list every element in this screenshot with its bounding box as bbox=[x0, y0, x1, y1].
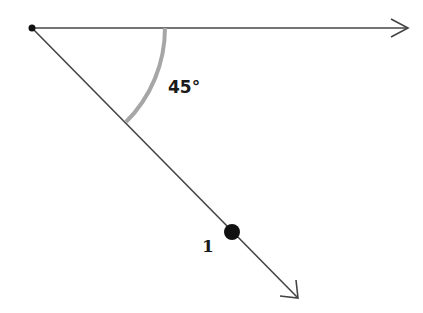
angle-label: 45° bbox=[168, 77, 200, 97]
diagonal-ray bbox=[32, 28, 298, 298]
point-label: 1 bbox=[202, 236, 214, 256]
origin-point bbox=[29, 25, 36, 32]
angle-arc bbox=[126, 28, 165, 122]
horizontal-ray bbox=[32, 19, 408, 37]
unit-point bbox=[224, 224, 240, 240]
angle-diagram: 45° 1 bbox=[0, 0, 423, 313]
